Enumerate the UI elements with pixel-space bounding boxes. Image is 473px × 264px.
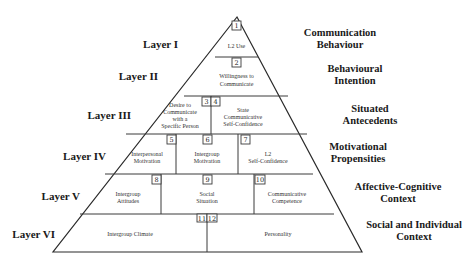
cell-text: Interpersonal — [131, 151, 163, 157]
cell-willingness-to-communicate: 2 Willingness to Communicate — [219, 58, 254, 87]
layer-category: Motivational — [329, 141, 387, 152]
layer-2: Layer II Behavioural Intention 2 Willing… — [119, 58, 383, 87]
cell-number: 7 — [243, 136, 247, 144]
cell-text: L2 — [265, 151, 272, 157]
cell-number: 12 — [208, 215, 216, 223]
cell-intergroup-attitudes: 8 Intergroup Attitudes — [115, 175, 161, 204]
cell-l2-self-confidence: 7 L2 Self-Confidence — [241, 135, 288, 164]
cell-text: Communicate — [163, 109, 197, 115]
layer-category: Communication — [304, 27, 376, 38]
cell-number: 8 — [154, 176, 158, 184]
cell-text: Personality — [265, 231, 292, 237]
layer-label: Layer III — [88, 109, 132, 121]
cell-number: 2 — [234, 59, 238, 67]
cell-text: Communicative — [224, 114, 263, 120]
cell-text: Intergroup — [115, 191, 140, 197]
cell-text: L2 Use — [228, 43, 246, 49]
layer-category: Context — [396, 231, 432, 242]
layer-category: Affective-Cognitive — [355, 181, 442, 192]
cell-communicative-competence: 10 Communicative Competence — [255, 175, 306, 204]
layer-category: Situated — [351, 103, 389, 114]
layer-category: Context — [380, 193, 416, 204]
cell-intergroup-climate: 11 Intergroup Climate — [107, 214, 207, 237]
cell-text: Competence — [272, 198, 302, 204]
layer-category: Intention — [334, 75, 376, 86]
layer-label: Layer I — [143, 38, 178, 50]
layer-category: Behavioural — [328, 63, 383, 74]
cell-number: 11 — [198, 215, 206, 223]
layer-category: Social and Individual — [366, 219, 462, 230]
layer-category: Propensities — [331, 153, 386, 164]
cell-text: State — [237, 107, 249, 113]
cell-text: Communicative — [268, 191, 307, 197]
layer-3: Layer III Situated Antecedents 3 Desire … — [88, 97, 398, 129]
cell-text: Communicate — [220, 81, 254, 87]
layer-label: Layer IV — [63, 150, 106, 162]
cell-text: Attitudes — [117, 198, 140, 204]
wtc-pyramid-diagram: Layer I Communication Behaviour 1 L2 Use… — [0, 0, 473, 264]
cell-number: 5 — [169, 136, 173, 144]
cell-number: 1 — [234, 22, 238, 30]
layer-4: Layer IV Motivational Propensities 5 Int… — [63, 135, 387, 164]
cell-text: Desire to — [169, 102, 191, 108]
cell-text: Specific Person — [161, 123, 199, 129]
cell-text: Social — [200, 191, 215, 197]
cell-text: Willingness to — [219, 73, 254, 79]
cell-text: Motivation — [194, 158, 221, 164]
cell-number: 3 — [204, 98, 208, 106]
cell-text: Motivation — [134, 158, 161, 164]
layer-category: Antecedents — [343, 115, 398, 126]
cell-number: 6 — [205, 136, 209, 144]
cell-text: Intergroup Climate — [107, 231, 153, 237]
cell-personality: 12 Personality — [207, 214, 292, 237]
layer-label: Layer V — [42, 190, 80, 202]
layer-1: Layer I Communication Behaviour 1 L2 Use — [143, 21, 376, 50]
layer-label: Layer VI — [12, 228, 55, 240]
cell-text: Intergroup — [194, 151, 219, 157]
layer-label: Layer II — [119, 70, 158, 82]
cell-text: Self-Confidence — [248, 158, 288, 164]
cell-intergroup-motivation: 6 Intergroup Motivation — [194, 135, 221, 164]
cell-number: 10 — [256, 176, 264, 184]
cell-social-situation: 9 Social Situation — [196, 175, 218, 204]
cell-text: Situation — [196, 198, 218, 204]
cell-text: Self-Confidence — [223, 121, 263, 127]
cell-number: 4 — [213, 98, 217, 106]
cell-state-communicative-self-confidence: 4 State Communicative Self-Confidence — [211, 97, 263, 127]
cell-number: 9 — [205, 176, 209, 184]
cell-text: with a — [173, 116, 188, 122]
cell-desire-to-communicate: 3 Desire to Communicate with a Specific … — [161, 97, 211, 129]
cell-interpersonal-motivation: 5 Interpersonal Motivation — [131, 135, 176, 164]
layer-category: Behaviour — [317, 39, 364, 50]
